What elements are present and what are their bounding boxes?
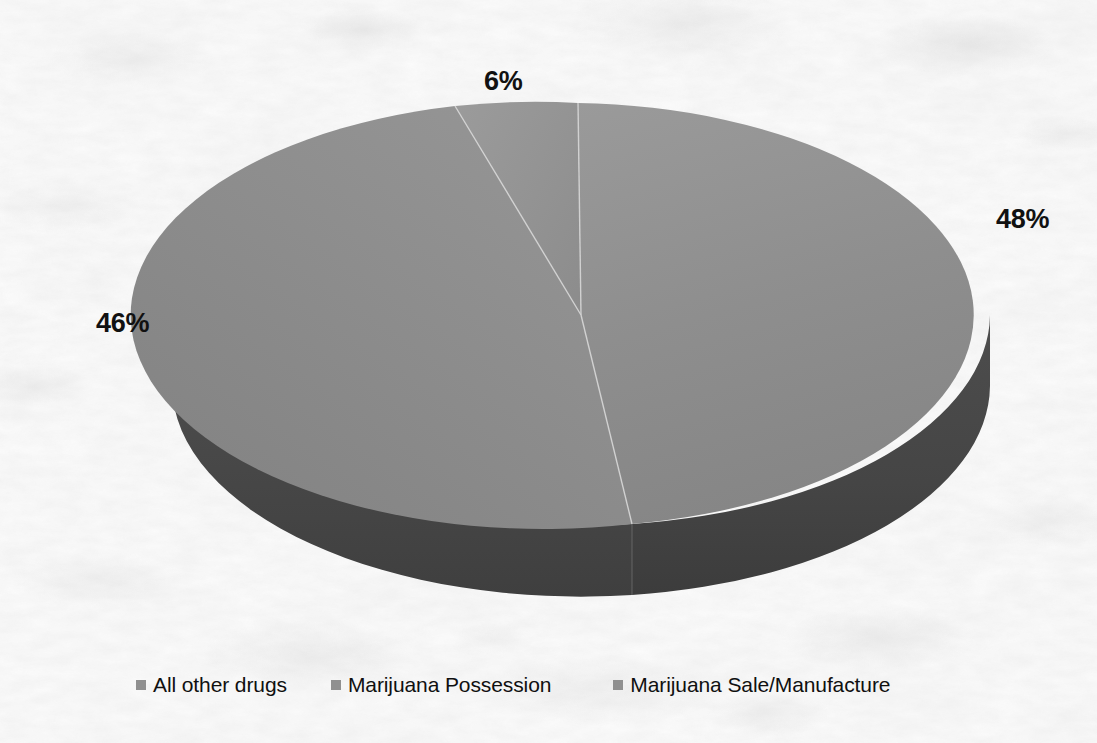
pie-top-face	[131, 102, 974, 529]
chart-page: 6% 48% 46% All other drugs Marijuana Pos…	[0, 0, 1097, 743]
legend-swatch-icon-all-other-drugs	[136, 680, 146, 690]
pie-chart-graphic	[0, 0, 1097, 660]
data-label-marijuana-possession: 46%	[96, 308, 149, 339]
data-label-all-other-drugs: 48%	[996, 204, 1049, 235]
data-label-marijuana-sale-manufacture: 6%	[484, 66, 522, 97]
legend-swatch-icon-marijuana-possession	[331, 680, 341, 690]
legend-swatch-icon-marijuana-sale-manufacture	[613, 680, 623, 690]
pie-chart-plot-area: 6% 48% 46%	[0, 0, 1097, 660]
legend-item-marijuana-sale-manufacture[interactable]: Marijuana Sale/Manufacture	[613, 673, 890, 697]
legend-label-marijuana-possession: Marijuana Possession	[348, 673, 551, 697]
legend-item-marijuana-possession[interactable]: Marijuana Possession	[331, 673, 551, 697]
chart-legend: All other drugs Marijuana Possession Mar…	[0, 662, 1097, 708]
legend-label-all-other-drugs: All other drugs	[153, 673, 287, 697]
legend-item-all-other-drugs[interactable]: All other drugs	[136, 673, 287, 697]
legend-label-marijuana-sale-manufacture: Marijuana Sale/Manufacture	[630, 673, 890, 697]
